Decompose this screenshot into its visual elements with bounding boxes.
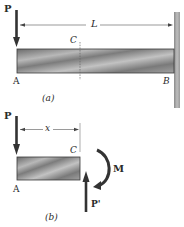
load-arrow-b (13, 116, 20, 155)
caption-b: (b) (45, 213, 58, 222)
caption-a: (a) (42, 94, 54, 103)
moment-label: M (113, 164, 124, 174)
reaction-arrow (83, 171, 90, 212)
end-label-b: B (163, 77, 170, 86)
beam-b (17, 157, 80, 180)
beam-a (17, 49, 174, 73)
cantilever-beam-diagram (0, 0, 184, 227)
distance-label: x (45, 124, 50, 133)
moment-arrow (93, 150, 109, 190)
reaction-label: P' (91, 200, 101, 209)
end-label-a: A (13, 77, 20, 86)
end-label-a-b: A (13, 185, 20, 194)
load-arrow-a (13, 10, 20, 47)
length-label: L (89, 19, 100, 29)
panel-b (13, 116, 109, 212)
load-label-b: P (4, 111, 12, 121)
section-label-b: C (70, 146, 77, 155)
section-label-a: C (70, 36, 77, 45)
load-label-a: P (4, 4, 12, 14)
fixed-wall (174, 12, 180, 108)
